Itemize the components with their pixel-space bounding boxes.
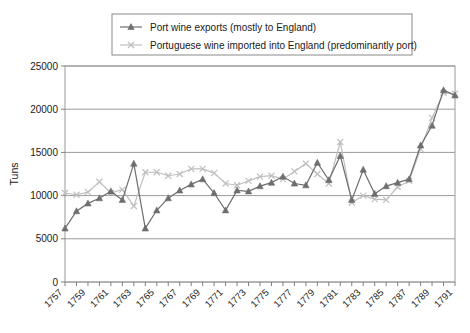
x-tick-label: 1787	[386, 287, 409, 310]
series-line	[65, 90, 455, 228]
x-tick-label: 1763	[111, 287, 134, 310]
x-tick-label: 1789	[409, 287, 432, 310]
x-tick-label: 1779	[294, 287, 317, 310]
y-axis-group	[61, 66, 65, 282]
x-tick-label: 1783	[340, 287, 363, 310]
legend-label: Port wine exports (mostly to England)	[150, 22, 316, 33]
data-marker-x	[131, 203, 137, 209]
x-tick-label: 1777	[271, 287, 294, 310]
x-tick-label: 1773	[225, 287, 248, 310]
gridlines-group	[65, 66, 455, 282]
x-tick-label: 1757	[42, 287, 65, 310]
y-tick-label: 5000	[36, 233, 59, 244]
data-marker-triangle	[360, 166, 366, 172]
x-tick-label: 1775	[248, 287, 271, 310]
data-marker-triangle	[372, 190, 378, 196]
data-marker-x	[96, 179, 102, 185]
x-tick-label: 1767	[156, 287, 179, 310]
plot-frame	[65, 66, 455, 282]
data-marker-x	[303, 161, 309, 167]
legend-item-2[interactable]: Portuguese wine imported into England (p…	[120, 40, 417, 51]
legend-label: Portuguese wine imported into England (p…	[150, 40, 417, 51]
x-tick-label: 1785	[363, 287, 386, 310]
chart-container: 0500010000150002000025000Tuns17571759176…	[0, 0, 470, 333]
legend-item-1[interactable]: Port wine exports (mostly to England)	[120, 22, 316, 33]
y-tick-label: 25000	[30, 61, 58, 72]
x-axis-group	[65, 282, 455, 286]
data-marker-x	[246, 178, 252, 184]
data-marker-triangle	[291, 180, 297, 186]
data-marker-triangle	[314, 159, 320, 165]
data-marker-triangle	[199, 176, 205, 182]
data-marker-triangle	[177, 187, 183, 193]
wine-trade-line-chart: 0500010000150002000025000Tuns17571759176…	[0, 0, 470, 333]
series-1	[62, 87, 458, 231]
data-marker-triangle	[119, 197, 125, 203]
x-tick-label: 1771	[202, 287, 225, 310]
y-tick-label: 20000	[30, 104, 58, 115]
y-tick-label: 10000	[30, 190, 58, 201]
data-marker-x	[314, 171, 320, 177]
x-tick-label: 1761	[88, 287, 111, 310]
x-tick-label: 1759	[65, 287, 88, 310]
series-2	[62, 90, 458, 209]
x-tick-label: 1781	[317, 287, 340, 310]
data-marker-triangle	[73, 208, 79, 214]
data-marker-triangle	[131, 160, 137, 166]
y-tick-label: 0	[52, 277, 58, 288]
legend: Port wine exports (mostly to England)Por…	[112, 14, 417, 55]
y-tick-label: 15000	[30, 147, 58, 158]
x-tick-label: 1769	[179, 287, 202, 310]
data-marker-x	[291, 168, 297, 174]
x-tick-label: 1791	[432, 287, 455, 310]
data-marker-triangle	[268, 179, 274, 185]
data-marker-x	[211, 170, 217, 176]
x-tick-label: 1765	[133, 287, 156, 310]
y-axis-title: Tuns	[8, 163, 20, 186]
